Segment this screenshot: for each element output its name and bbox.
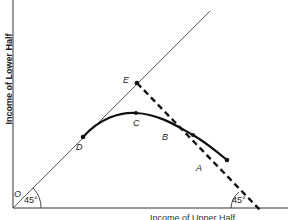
point-d bbox=[81, 135, 86, 140]
diagram-canvas bbox=[0, 0, 288, 220]
label-c: C bbox=[133, 118, 140, 128]
label-b: B bbox=[162, 132, 168, 142]
label-d: D bbox=[76, 142, 83, 152]
label-e: E bbox=[123, 75, 129, 85]
right-angle-label: 45° bbox=[232, 195, 246, 205]
origin-label: O bbox=[14, 189, 21, 199]
equality-line bbox=[13, 11, 210, 208]
x-axis-label: Income of Upper Half bbox=[150, 213, 235, 220]
label-a: A bbox=[196, 163, 202, 173]
point-c bbox=[134, 111, 138, 115]
point-a bbox=[225, 158, 230, 163]
dashed-line bbox=[137, 83, 260, 210]
point-b bbox=[191, 133, 195, 137]
point-e bbox=[135, 81, 140, 86]
origin-angle-label: 45° bbox=[24, 195, 38, 205]
frontier-curve bbox=[83, 113, 227, 160]
y-axis-label: Income of Lower Half bbox=[4, 24, 18, 134]
